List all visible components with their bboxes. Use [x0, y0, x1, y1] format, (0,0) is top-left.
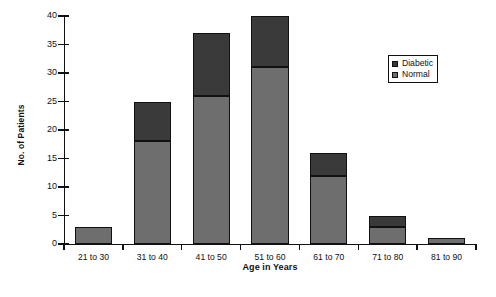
x-axis-tick: [358, 244, 359, 250]
y-axis-tick-label: 20: [17, 124, 57, 134]
y-axis-tick-label: 35: [17, 39, 57, 49]
x-axis-tick: [240, 244, 241, 250]
legend: Diabetic Normal: [388, 55, 438, 83]
x-axis-tick-label: 81 to 90: [431, 252, 462, 262]
x-axis-tick: [122, 244, 123, 250]
bar-segment-normal: [134, 141, 171, 244]
x-axis-tick-label: 51 to 60: [254, 252, 285, 262]
x-axis-title: Age in Years: [64, 262, 476, 272]
bar-segment-diabetic: [310, 153, 347, 176]
bar-segment-normal: [75, 227, 112, 244]
y-axis-tick: [58, 215, 69, 216]
bar-segment-diabetic: [193, 33, 230, 96]
y-axis-tick-label: 15: [17, 153, 57, 163]
bar-41-to-50: [193, 33, 230, 244]
y-axis-tick-label: 5: [17, 210, 57, 220]
x-axis-tick: [299, 244, 300, 250]
bar-segment-normal: [310, 176, 347, 244]
legend-item-normal: Normal: [392, 69, 433, 80]
bar-segment-normal: [251, 67, 288, 244]
y-axis-tick: [58, 44, 69, 45]
bar-segment-normal: [428, 238, 465, 244]
y-axis-tick: [58, 158, 69, 159]
legend-swatch-normal-icon: [392, 72, 398, 78]
bar-71-to-80: [369, 216, 406, 245]
y-axis-tick: [58, 129, 69, 130]
x-axis-tick: [63, 244, 64, 250]
y-axis-tick: [58, 72, 69, 73]
x-axis-tick-label: 41 to 50: [196, 252, 227, 262]
legend-swatch-diabetic-icon: [392, 61, 398, 67]
x-axis-tick-label: 71 to 80: [372, 252, 403, 262]
y-axis-tick: [58, 101, 69, 102]
x-axis-tick: [416, 244, 417, 250]
bar-segment-normal: [369, 227, 406, 244]
bar-51-to-60: [251, 16, 288, 244]
bar-21-to-30: [75, 227, 112, 244]
x-axis-tick-label: 31 to 40: [137, 252, 168, 262]
bar-segment-diabetic: [134, 102, 171, 142]
x-axis-tick: [181, 244, 182, 250]
bar-segment-normal: [193, 96, 230, 244]
x-axis-line: [64, 244, 476, 245]
y-axis-tick-label: 0: [17, 238, 57, 248]
legend-item-diabetic: Diabetic: [392, 58, 433, 69]
chart-figure: No. of Patients 0510152025303540 21 to 3…: [0, 0, 496, 297]
x-axis-tick-label: 21 to 30: [78, 252, 109, 262]
legend-label-normal: Normal: [402, 69, 430, 80]
bar-segment-diabetic: [369, 216, 406, 227]
bar-segment-diabetic: [251, 16, 288, 67]
y-axis-tick-label: 30: [17, 67, 57, 77]
x-axis-tick-label: 61 to 70: [313, 252, 344, 262]
x-axis-tick: [475, 244, 476, 250]
y-axis-tick-label: 40: [17, 10, 57, 20]
bar-31-to-40: [134, 102, 171, 245]
bar-61-to-70: [310, 153, 347, 244]
y-axis-tick-label: 25: [17, 96, 57, 106]
y-axis-tick-label: 10: [17, 181, 57, 191]
legend-label-diabetic: Diabetic: [402, 58, 433, 69]
y-axis-tick: [58, 15, 69, 16]
y-axis-tick: [58, 186, 69, 187]
bar-81-to-90: [428, 238, 465, 244]
plot-area: 0510152025303540 21 to 3031 to 4041 to 5…: [64, 16, 476, 244]
